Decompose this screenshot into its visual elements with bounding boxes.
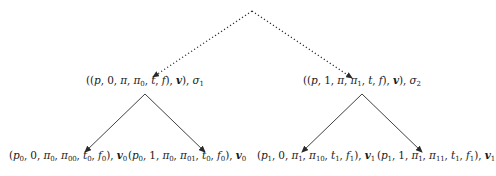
- solid-edge-4: [302, 94, 362, 152]
- node-label-n1: ((p, 0, π, π0, t, f), v), σ1: [86, 74, 204, 86]
- node-label-n2: ((p, 1, π, π1, t, f), v), σ2: [303, 74, 421, 86]
- node-label-n10: (p0, 0, π0, π00, t0, f0), v0: [9, 149, 127, 161]
- dotted-edge-1: [252, 11, 352, 78]
- solid-edge-3: [145, 94, 205, 152]
- node-label-n11: (p0, 1, π0, π01, t0, f0), v0: [128, 149, 246, 161]
- solid-edge-2: [85, 94, 145, 152]
- node-label-n21: (p1, 1, π1, π11, t1, f1), v1: [377, 149, 495, 161]
- dotted-edge-0: [153, 11, 252, 77]
- solid-edge-5: [362, 94, 422, 152]
- node-label-n20: (p1, 0, π1, π10, t1, f1), v1: [257, 149, 375, 161]
